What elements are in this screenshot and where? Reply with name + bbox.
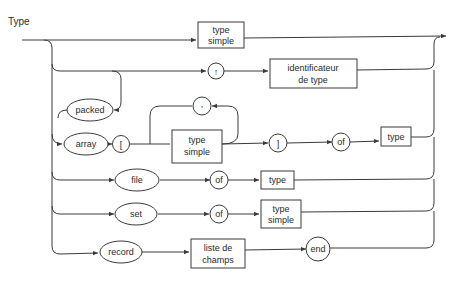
file-keyword-ellipse: file [115,169,159,191]
svg-text:type: type [272,204,289,214]
svg-text:]: ] [277,139,280,149]
set-keyword-ellipse: set [115,203,157,225]
diagram-title: Type [8,16,30,27]
of-circle-array: of [332,133,350,151]
svg-text:of: of [215,175,223,185]
svg-text:packed: packed [75,105,104,115]
syntax-diagram-type: Type [0,0,470,285]
svg-text:record: record [108,247,134,257]
type-simple-box-top: type simple [198,22,244,48]
svg-text:champs: champs [202,255,234,265]
right-bracket-circle: ] [269,134,287,152]
of-circle-set: of [210,205,228,223]
svg-text:type: type [212,25,229,35]
svg-text:type: type [269,175,286,185]
type-simple-box-set: type simple [261,200,301,228]
left-bracket-circle: [ [113,136,130,153]
svg-text:of: of [337,137,345,147]
svg-text:file: file [131,175,143,185]
type-box-file: type [261,171,294,189]
svg-text:type: type [387,132,404,142]
svg-text:identificateur: identificateur [287,63,338,73]
svg-text:de type: de type [298,75,328,85]
svg-text:set: set [130,209,143,219]
svg-text:liste de: liste de [204,243,233,253]
svg-text:simple: simple [208,36,234,46]
liste-de-champs-box: liste de champs [191,239,245,268]
end-circle: end [306,237,330,261]
svg-text:array: array [76,139,97,149]
record-keyword-ellipse: record [100,241,142,263]
svg-text:type: type [188,135,205,145]
svg-text:simple: simple [184,147,210,157]
pointer-arrow-circle: ↑ [208,63,224,79]
svg-text:,: , [201,99,204,109]
identificateur-de-type-box: identificateur de type [270,59,357,88]
array-keyword-ellipse: array [64,133,108,155]
up-arrow-icon: ↑ [214,67,219,77]
packed-keyword-ellipse: packed [67,99,113,121]
svg-text:of: of [215,209,223,219]
comma-circle: , [193,97,211,115]
of-circle-file: of [210,171,228,189]
svg-text:simple: simple [268,215,294,225]
type-simple-box-array: type simple [172,130,222,163]
type-box-array: type [381,127,411,146]
svg-text:end: end [310,244,325,254]
